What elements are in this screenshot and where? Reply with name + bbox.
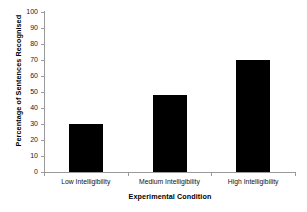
x-axis-category-label: High Intelligibility bbox=[211, 179, 295, 186]
y-axis-tick-label: 10 bbox=[30, 152, 38, 159]
bar bbox=[69, 124, 103, 172]
x-axis-tick-mark bbox=[128, 173, 129, 176]
x-axis-line bbox=[44, 172, 296, 173]
y-axis-tick-label: 40 bbox=[30, 104, 38, 111]
x-axis-category-label: Medium Intelligibility bbox=[128, 179, 212, 186]
y-axis-tick-label: 30 bbox=[30, 120, 38, 127]
y-axis-title: Percentage of Sentences Recognised bbox=[15, 0, 22, 166]
y-axis-tick-label: 70 bbox=[30, 56, 38, 63]
plot-area bbox=[44, 12, 295, 172]
y-axis-tick-label: 20 bbox=[30, 136, 38, 143]
x-axis-tick-mark bbox=[211, 173, 212, 176]
x-axis-title: Experimental Condition bbox=[44, 193, 296, 200]
y-axis-tick-label: 50 bbox=[30, 88, 38, 95]
x-axis-category-label: Low Intelligibility bbox=[44, 179, 128, 186]
x-axis-tick-mark bbox=[295, 173, 296, 176]
bar-chart: Percentage of Sentences Recognised 01020… bbox=[0, 0, 307, 212]
x-axis-tick-mark bbox=[44, 173, 45, 176]
bar bbox=[236, 60, 270, 172]
y-axis-tick-label: 80 bbox=[30, 40, 38, 47]
y-axis-tick-label: 60 bbox=[30, 72, 38, 79]
y-axis-tick-label: 100 bbox=[26, 8, 38, 15]
y-axis-tick-label: 0 bbox=[34, 168, 38, 175]
bar bbox=[153, 95, 187, 172]
y-axis-tick-label: 90 bbox=[30, 24, 38, 31]
